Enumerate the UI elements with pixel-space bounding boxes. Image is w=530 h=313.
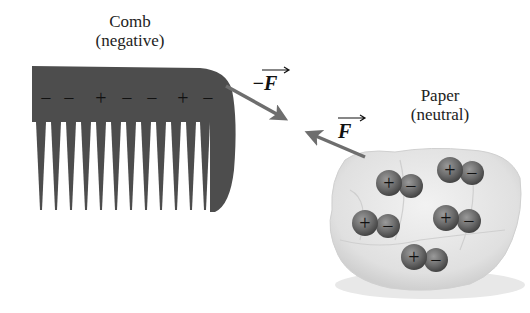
comb-label: Comb (negative) [60, 12, 200, 50]
vector-arrow-icon [338, 114, 368, 122]
comb-teeth [36, 122, 210, 210]
dipole-plus: + [357, 213, 373, 233]
comb-charge: + [175, 88, 191, 108]
paper-subtitle: (neutral) [390, 105, 490, 124]
comb-title: Comb [60, 12, 200, 31]
dipole-plus: + [406, 247, 422, 267]
dipole-minus: − [428, 250, 444, 270]
comb-charge: − [200, 88, 216, 108]
dipole-plus: + [438, 208, 454, 228]
comb-charge: − [38, 88, 54, 108]
comb-charge: − [119, 88, 135, 108]
dipole-minus: − [403, 176, 419, 196]
comb-charges: − − + − − + − [38, 88, 218, 110]
force-label-on-comb: −F [252, 72, 277, 95]
dipole-plus: + [381, 173, 397, 193]
comb-charge: + [93, 88, 109, 108]
vector-arrow-icon [262, 66, 292, 74]
force-label-on-paper: F [338, 120, 351, 143]
paper-label: Paper (neutral) [390, 86, 490, 124]
comb-charge: − [144, 88, 160, 108]
comb-subtitle: (negative) [60, 31, 200, 50]
dipole-minus: − [461, 211, 477, 231]
dipole-plus: + [442, 160, 458, 180]
dipole-minus: − [464, 163, 480, 183]
paper-title: Paper [390, 86, 490, 105]
comb-charge: − [61, 88, 77, 108]
dipole-minus: − [380, 216, 396, 236]
